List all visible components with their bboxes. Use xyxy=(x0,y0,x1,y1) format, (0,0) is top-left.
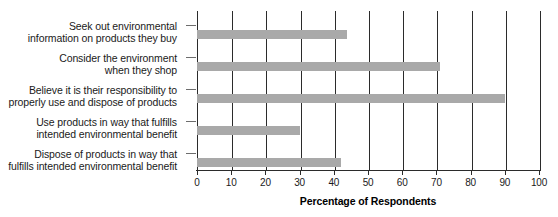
category-tick-0 xyxy=(186,25,196,26)
category-label-line: intended environmental benefit xyxy=(0,128,177,140)
gridline-60 xyxy=(403,11,404,171)
category-label-4: Dispose of products in way thatfulfills … xyxy=(0,148,177,173)
bar-0 xyxy=(197,30,347,39)
category-label-line: Dispose of products in way that xyxy=(0,148,177,160)
x-tick-70 xyxy=(436,171,437,175)
category-label-line: Seek out environmental xyxy=(0,20,177,32)
category-label-1: Consider the environmentwhen they shop xyxy=(0,52,177,77)
x-tick-30 xyxy=(300,171,301,175)
category-tick-4 xyxy=(186,153,196,154)
x-tick-100 xyxy=(539,171,540,175)
category-label-line: Believe it is their responsibility to xyxy=(0,84,177,96)
category-label-line: information on products they buy xyxy=(0,32,177,44)
x-tick-90 xyxy=(505,171,506,175)
category-label-0: Seek out environmentalinformation on pro… xyxy=(0,20,177,45)
x-axis-title: Percentage of Respondents xyxy=(197,195,539,207)
category-tick-3 xyxy=(186,121,196,122)
gridline-50 xyxy=(369,11,370,171)
x-tick-label-100: 100 xyxy=(519,177,558,188)
bar-1 xyxy=(197,62,440,71)
category-tick-2 xyxy=(186,89,196,90)
category-label-line: when they shop xyxy=(0,64,177,76)
gridline-70 xyxy=(437,11,438,171)
category-label-line: Use products in way that fulfills xyxy=(0,116,177,128)
category-label-group: Seek out environmentalinformation on pro… xyxy=(0,11,181,171)
x-tick-20 xyxy=(265,171,266,175)
bar-3 xyxy=(197,126,300,135)
gridline-90 xyxy=(506,11,507,171)
gridline-100 xyxy=(540,11,541,171)
x-tick-0 xyxy=(197,171,198,175)
x-tick-60 xyxy=(402,171,403,175)
category-label-3: Use products in way that fulfillsintende… xyxy=(0,116,177,141)
category-tick-1 xyxy=(186,57,196,58)
category-label-line: properly use and dispose of products xyxy=(0,96,177,108)
bar-chart: Seek out environmentalinformation on pro… xyxy=(0,0,558,217)
x-tick-50 xyxy=(368,171,369,175)
category-label-line: Consider the environment xyxy=(0,52,177,64)
category-label-line: fulfills intended environmental benefit xyxy=(0,160,177,172)
x-tick-80 xyxy=(471,171,472,175)
bar-4 xyxy=(197,158,341,167)
x-tick-10 xyxy=(231,171,232,175)
gridline-80 xyxy=(472,11,473,171)
bar-2 xyxy=(197,94,505,103)
x-tick-40 xyxy=(334,171,335,175)
category-label-2: Believe it is their responsibility topro… xyxy=(0,84,177,109)
